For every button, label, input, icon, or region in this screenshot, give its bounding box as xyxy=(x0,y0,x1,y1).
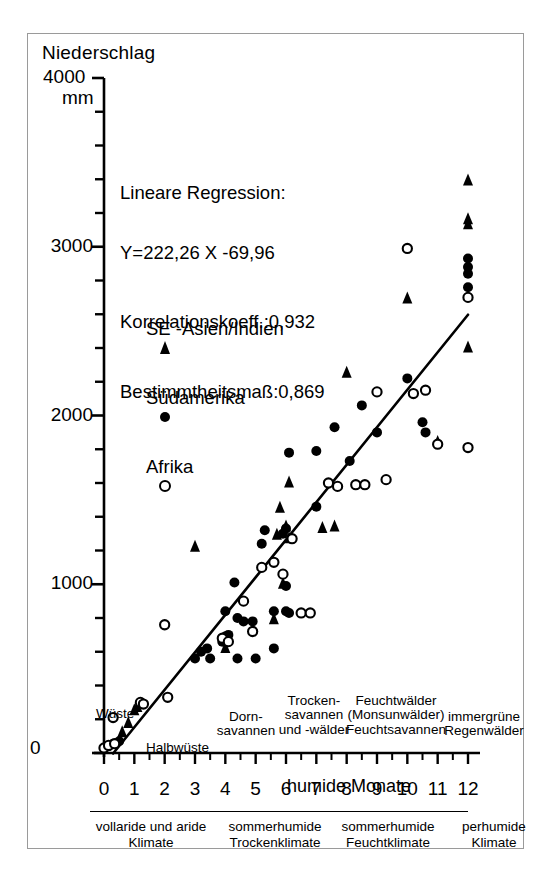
data-point xyxy=(275,501,285,513)
x-tick-label: 0 xyxy=(91,778,117,800)
data-point xyxy=(190,540,200,552)
data-point xyxy=(433,440,442,449)
data-point xyxy=(345,456,355,466)
footer-divider xyxy=(90,811,468,812)
veg-zone-regenwaelder: immergrüne Regenwälder xyxy=(440,710,528,739)
data-point xyxy=(357,400,367,410)
data-point xyxy=(281,581,291,591)
veg-zone-halbwueste: Halbwüste xyxy=(146,741,209,755)
figure-panel: Niederschlag 4000 mm Lineare Regression:… xyxy=(27,33,524,849)
climate-zone-perhumide: perhumide Klimate xyxy=(448,819,540,851)
veg-zone-wueste: Wüste xyxy=(96,707,134,721)
data-point xyxy=(110,739,119,748)
data-point xyxy=(351,480,360,489)
data-point xyxy=(311,502,321,512)
data-point xyxy=(409,389,418,398)
data-point xyxy=(239,616,249,626)
data-point xyxy=(306,608,315,617)
data-point xyxy=(311,446,321,456)
data-point xyxy=(224,637,233,646)
data-point xyxy=(163,693,172,702)
data-point xyxy=(257,539,267,549)
data-point xyxy=(232,654,242,664)
data-point xyxy=(260,525,270,535)
data-point xyxy=(330,422,340,432)
veg-zone-feuchtwaelder: Feuchtwälder (Monsunwälder) Feuchtsavann… xyxy=(344,694,448,737)
data-point xyxy=(317,521,327,533)
data-point xyxy=(229,578,239,588)
y-tick-label: 2000 xyxy=(31,404,93,426)
x-axis-title: humide Monate xyxy=(287,777,411,796)
climate-zone-sommerhumide-trocken: sommerhumide Trockenklimate xyxy=(220,819,330,851)
data-point xyxy=(284,608,294,618)
data-point xyxy=(239,597,248,606)
x-tick-label: 5 xyxy=(243,778,269,800)
data-point xyxy=(330,519,340,531)
data-point xyxy=(257,563,266,572)
climate-zone-vollaride-aride: vollaride und aride Klimate xyxy=(90,819,212,851)
x-tick-label: 3 xyxy=(182,778,208,800)
data-point xyxy=(418,417,428,427)
data-point xyxy=(372,387,381,396)
data-point xyxy=(402,292,412,304)
data-point xyxy=(297,608,306,617)
data-points-layer xyxy=(99,173,473,752)
x-tick-label: 2 xyxy=(152,778,178,800)
data-point xyxy=(463,293,472,302)
y-tick-label: 1000 xyxy=(31,572,93,594)
data-point xyxy=(269,558,278,567)
data-point xyxy=(342,366,352,378)
data-point xyxy=(248,616,258,626)
data-point xyxy=(220,606,230,616)
climate-zone-sommerhumide-feucht: sommerhumide Feuchtklimate xyxy=(332,819,444,851)
data-point xyxy=(269,643,279,653)
data-point xyxy=(333,482,342,491)
data-point xyxy=(269,606,279,616)
data-point xyxy=(372,427,382,437)
veg-zone-trockensavannen: Trocken- savannen und -wälder xyxy=(276,694,352,737)
data-point xyxy=(202,643,212,653)
data-point xyxy=(403,244,412,253)
data-point xyxy=(281,524,291,534)
x-tick-label: 1 xyxy=(121,778,147,800)
x-tick-label: 11 xyxy=(425,778,451,800)
data-point xyxy=(463,269,473,279)
veg-zone-dornsavannen: Dorn- savannen xyxy=(210,710,282,739)
data-point xyxy=(402,373,412,383)
data-point xyxy=(463,282,473,292)
data-point xyxy=(287,534,296,543)
x-tick-label: 4 xyxy=(212,778,238,800)
data-point xyxy=(284,476,294,488)
data-point xyxy=(463,443,472,452)
data-point xyxy=(360,480,369,489)
data-point xyxy=(463,341,473,353)
data-point xyxy=(324,478,333,487)
data-point xyxy=(160,620,169,629)
y-axis-zero-label: 0 xyxy=(30,738,41,758)
x-tick-label: 12 xyxy=(455,778,481,800)
data-point xyxy=(251,654,261,664)
data-point xyxy=(382,475,391,484)
data-point xyxy=(421,427,431,437)
data-point xyxy=(463,173,473,185)
y-tick-label: 3000 xyxy=(31,235,93,257)
data-point xyxy=(284,448,294,458)
data-point xyxy=(139,699,148,708)
data-point xyxy=(278,570,287,579)
data-point xyxy=(421,386,430,395)
data-point xyxy=(248,627,257,636)
data-point xyxy=(205,654,215,664)
